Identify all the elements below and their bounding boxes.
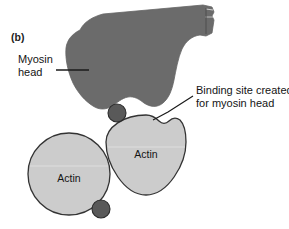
regulatory-bead-lower bbox=[92, 200, 110, 218]
binding-site-label-line2: for myosin head bbox=[196, 97, 274, 109]
regulatory-bead-upper bbox=[108, 104, 126, 122]
actin-right-label: Actin bbox=[134, 148, 158, 160]
figure-container: (b) Myosin head Binding site created for… bbox=[0, 0, 289, 229]
myosin-head-label-line2: head bbox=[18, 66, 42, 78]
binding-site-label-line1: Binding site created bbox=[196, 84, 289, 96]
muscle-contraction-diagram: (b) Myosin head Binding site created for… bbox=[0, 0, 289, 229]
myosin-head-label-line1: Myosin bbox=[18, 53, 53, 65]
panel-label: (b) bbox=[11, 31, 24, 43]
actin-left-label: Actin bbox=[57, 172, 81, 184]
